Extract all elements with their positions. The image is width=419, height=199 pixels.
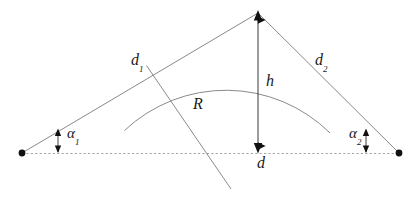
- geometry-diagram: d1 d2 α1 α2 h d R: [0, 0, 419, 199]
- label-alpha2-text: α: [349, 125, 357, 141]
- label-d2-subscript: 2: [323, 64, 328, 74]
- label-R-text: R: [193, 95, 203, 112]
- diagram-canvas: [0, 0, 419, 199]
- label-h-text: h: [266, 72, 274, 89]
- circular-arc: [125, 90, 331, 133]
- label-alpha2-subscript: 2: [357, 137, 362, 147]
- angle-marker-left-head-top: [55, 129, 61, 137]
- label-alpha1: α1: [67, 126, 79, 144]
- right-endpoint-dot: [396, 150, 403, 157]
- label-h: h: [266, 73, 274, 89]
- label-d1: d1: [131, 52, 144, 71]
- label-R: R: [193, 96, 203, 112]
- left-endpoint-dot: [19, 150, 26, 157]
- height-arrow-head-bottom: [254, 143, 262, 154]
- label-alpha2: α2: [349, 126, 361, 144]
- label-alpha1-subscript: 1: [75, 137, 80, 147]
- angle-marker-right-head-bottom: [363, 146, 369, 154]
- label-d: d: [257, 155, 265, 171]
- label-d2: d2: [315, 52, 328, 71]
- radius-line: [147, 66, 232, 190]
- label-d1-subscript: 1: [139, 64, 144, 74]
- label-d-text: d: [257, 154, 265, 171]
- label-d1-text: d: [131, 51, 139, 68]
- label-d2-text: d: [315, 51, 323, 68]
- angle-marker-right-head-top: [363, 129, 369, 137]
- angle-marker-left-head-bottom: [55, 146, 61, 154]
- label-alpha1-text: α: [67, 125, 75, 141]
